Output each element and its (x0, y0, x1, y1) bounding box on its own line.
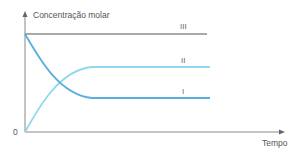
x-axis-label: Tempo (262, 138, 288, 148)
series-II-line (25, 67, 210, 132)
origin-label: 0 (13, 127, 18, 137)
series-II-label: II (181, 56, 185, 65)
y-axis-label: Concentração molar (33, 10, 110, 20)
chart-plot (0, 0, 294, 157)
series-III-label: III (180, 22, 187, 31)
series-I-label: I (182, 87, 184, 96)
y-axis-arrow-icon (23, 11, 28, 17)
x-axis-arrow-icon (279, 130, 285, 135)
